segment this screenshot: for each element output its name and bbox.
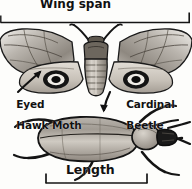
beetle-label-line1: Cardinal xyxy=(126,98,174,110)
eyed-hawk-moth-illustration xyxy=(0,24,192,96)
wing-span-bracket xyxy=(1,13,191,23)
eyed-hawk-moth-label: Eyed Hawk Moth xyxy=(2,88,82,141)
moth-right-eyespot xyxy=(131,76,140,83)
wing-span-label: Wing span xyxy=(40,0,111,10)
beetle-label-line2: Beetle xyxy=(126,119,163,131)
moth-label-line1: Eyed xyxy=(16,98,44,110)
moth-label-line2: Hawk Moth xyxy=(16,119,81,131)
insect-measurement-diagram: Wing span Eyed Hawk Moth Cardinal Beetle… xyxy=(0,0,192,189)
length-label: Length xyxy=(66,165,115,176)
beetle-pointer-arrow xyxy=(100,92,110,113)
moth-left-eyespot xyxy=(51,76,60,83)
cardinal-beetle-label: Cardinal Beetle xyxy=(112,88,175,141)
